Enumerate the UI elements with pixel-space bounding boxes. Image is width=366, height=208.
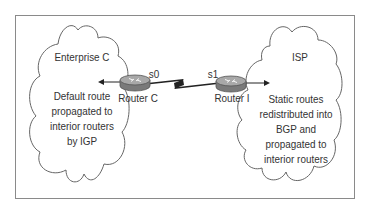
enterprise-c-description: Default route propagated to interior rou… <box>41 89 124 149</box>
isp-description-line: propagated to <box>253 137 339 152</box>
router-c-label: Router C <box>114 91 162 106</box>
router-c-interface-label: s0 <box>147 67 161 82</box>
isp-title: ISP <box>288 50 312 65</box>
router-i-icon <box>216 76 246 92</box>
router-c-icon <box>120 75 150 91</box>
isp-description-line: BGP and <box>253 122 339 137</box>
enterprise-c-description-line: interior routers <box>41 119 124 134</box>
enterprise-c-description-line: Default route <box>41 89 124 104</box>
enterprise-c-description-line: by IGP <box>41 134 124 149</box>
isp-description-line: redistributed into <box>253 107 339 122</box>
isp-description-line: interior routers <box>253 152 339 167</box>
isp-description: Static routes redistributed into BGP and… <box>253 92 339 167</box>
router-i-interface-label: s1 <box>207 67 219 82</box>
enterprise-c-description-line: propagated to <box>41 104 124 119</box>
isp-description-line: Static routes <box>253 92 339 107</box>
router-i-label: Router I <box>210 91 255 106</box>
enterprise-c-title: Enterprise C <box>51 50 113 65</box>
